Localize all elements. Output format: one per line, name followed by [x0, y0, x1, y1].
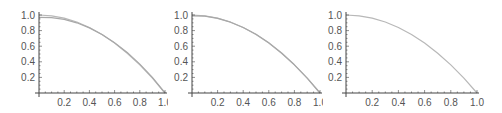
x-tick-label: 0.4: [236, 97, 250, 108]
series-line-2: [39, 17, 165, 93]
y-tick-label: 0.6: [174, 41, 188, 52]
y-tick-label: 0.8: [21, 25, 35, 36]
x-tick-label: 0.6: [108, 97, 122, 108]
x-tick-label: 1.0: [470, 97, 484, 108]
y-tick-label: 1.0: [21, 10, 35, 21]
x-tick-label: 0.2: [365, 97, 379, 108]
x-tick-label: 0.6: [262, 97, 276, 108]
y-tick-label: 0.4: [21, 56, 35, 67]
chart-panel-3: 0.20.40.60.81.00.20.40.60.81.0: [307, 0, 502, 113]
x-tick-label: 0.8: [133, 97, 147, 108]
chart-3: 0.20.40.60.81.00.20.40.60.81.0: [307, 0, 502, 113]
x-tick-label: 0.8: [444, 97, 458, 108]
y-tick-label: 0.2: [21, 72, 35, 83]
y-tick-label: 0.8: [328, 25, 342, 36]
series-line-1: [192, 15, 320, 93]
x-tick-label: 0.6: [418, 97, 432, 108]
y-tick-label: 0.2: [328, 72, 342, 83]
x-tick-label: 0.2: [211, 97, 225, 108]
y-tick-label: 0.6: [21, 41, 35, 52]
series-line-2: [192, 16, 320, 93]
y-tick-label: 1.0: [174, 10, 188, 21]
y-tick-label: 0.2: [174, 72, 188, 83]
y-tick-label: 0.4: [174, 56, 188, 67]
y-tick-label: 0.8: [174, 25, 188, 36]
x-tick-label: 0.4: [82, 97, 96, 108]
series-line-1: [346, 15, 477, 93]
chart-panel-1: 0.20.40.60.81.00.20.40.60.81.0: [0, 0, 168, 113]
x-tick-label: 0.8: [287, 97, 301, 108]
x-tick-label: 0.2: [57, 97, 71, 108]
y-tick-label: 0.6: [328, 41, 342, 52]
chart-2: 0.20.40.60.81.00.20.40.60.81.0: [153, 0, 323, 113]
chart-1: 0.20.40.60.81.00.20.40.60.81.0: [0, 0, 168, 113]
y-tick-label: 1.0: [328, 10, 342, 21]
x-tick-label: 0.4: [391, 97, 405, 108]
y-tick-label: 0.4: [328, 56, 342, 67]
chart-panel-2: 0.20.40.60.81.00.20.40.60.81.0: [153, 0, 323, 113]
series-line-1: [39, 15, 165, 93]
